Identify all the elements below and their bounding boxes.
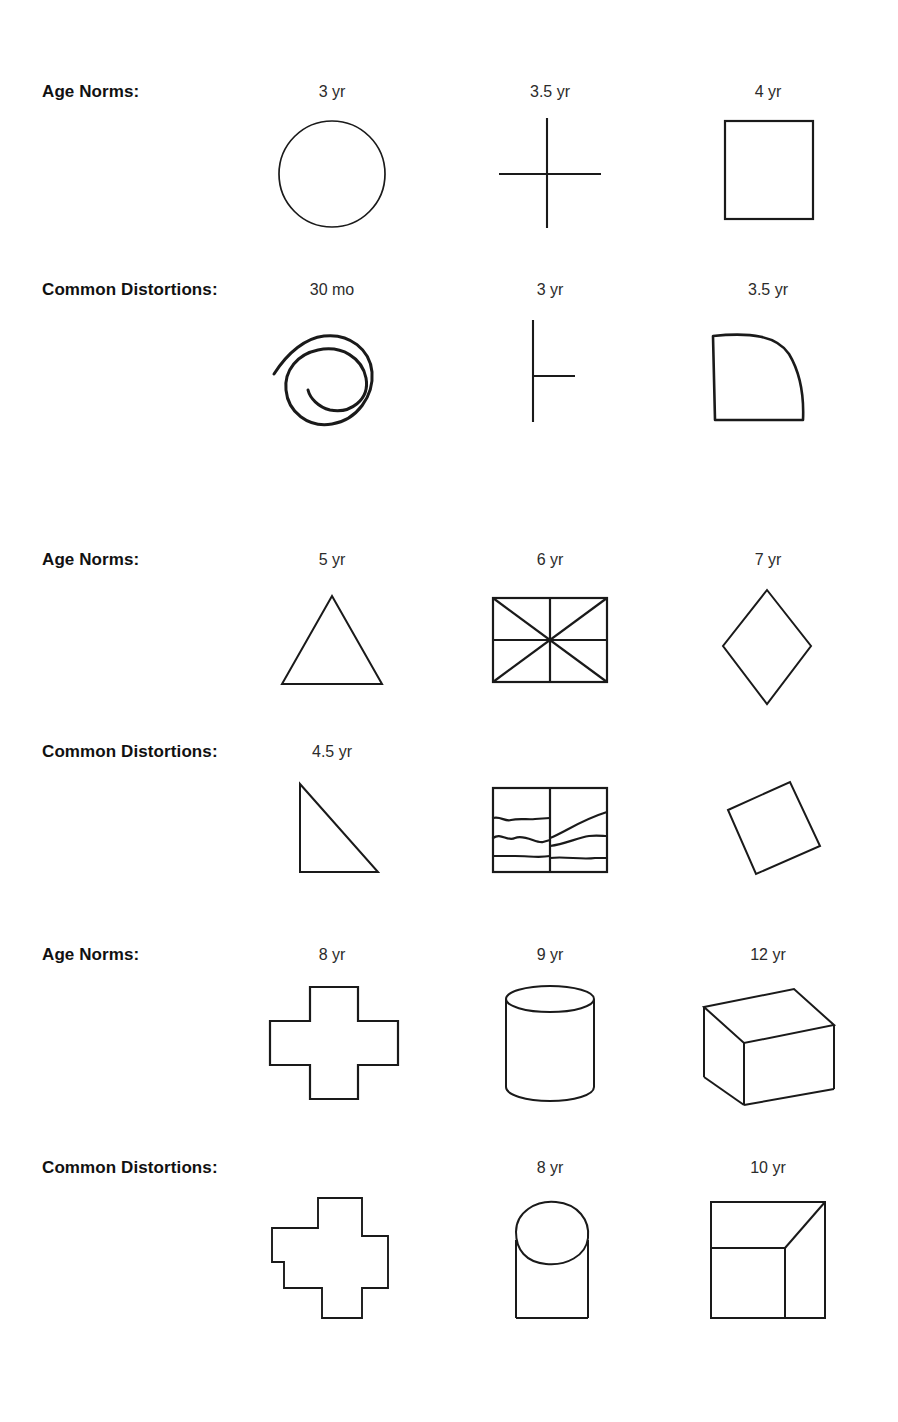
age-label-cylinder: 9 yr: [450, 945, 650, 965]
shape-circle: [232, 116, 432, 256]
age-label-greek-cross: 8 yr: [232, 945, 432, 965]
shape-wavy-divided-rectangle: [450, 776, 650, 896]
cell-norm-cylinder: 9 yr: [450, 945, 650, 1119]
row-label-common-distortions-3: Common Distortions:: [42, 1158, 218, 1178]
age-label-divided-rectangle: 6 yr: [450, 550, 650, 570]
cell-distortion-wavy-rectangle: [450, 742, 650, 896]
age-label-stepped-cross: [232, 1158, 432, 1178]
age-label-cross: 3.5 yr: [450, 82, 650, 102]
row-label-common-distortions-2: Common Distortions:: [42, 742, 218, 762]
shape-rounded-corner-square: [668, 314, 868, 454]
cell-norm-cube: 12 yr: [668, 945, 868, 1119]
cell-distortion-t-cross: 3 yr: [450, 280, 650, 454]
cell-distortion-rounded-square: 3.5 yr: [668, 280, 868, 454]
row-label-common-distortions-1: Common Distortions:: [42, 280, 218, 300]
row-label-age-norms-3: Age Norms:: [42, 945, 139, 965]
cell-norm-triangle: 5 yr: [232, 550, 432, 724]
shape-cylinder: [450, 979, 650, 1119]
age-label-cube: 12 yr: [668, 945, 868, 965]
cell-distortion-scribbled-circle: 30 mo: [232, 280, 432, 454]
cell-norm-square: 4 yr: [668, 82, 868, 256]
figure-page: Age Norms: 3 yr 3.5 yr 4 yr: [0, 0, 898, 1422]
age-label-tilted-square: [668, 742, 868, 762]
age-label-triangle: 5 yr: [232, 550, 432, 570]
cell-distortion-right-triangle: 4.5 yr: [232, 742, 432, 896]
shape-square: [668, 116, 868, 256]
shape-tilted-square: [668, 776, 868, 896]
shape-stepped-irregular-cross: [232, 1192, 432, 1332]
row-label-age-norms-1: Age Norms:: [42, 82, 139, 102]
cell-norm-divided-rectangle: 6 yr: [450, 550, 650, 724]
shape-cross: [450, 116, 650, 256]
shape-diamond: [668, 584, 868, 724]
age-label-diamond: 7 yr: [668, 550, 868, 570]
shape-greek-cross: [232, 979, 432, 1119]
shape-flat-cube-with-diagonal: [668, 1192, 868, 1332]
cell-distortion-oval-on-rectangle: 8 yr: [450, 1158, 650, 1332]
cell-norm-greek-cross: 8 yr: [232, 945, 432, 1119]
age-label-square: 4 yr: [668, 82, 868, 102]
age-label-rounded-square: 3.5 yr: [668, 280, 868, 300]
shape-t-shape-cross: [450, 314, 650, 454]
age-label-scribbled-circle: 30 mo: [232, 280, 432, 300]
age-label-oval-on-rectangle: 8 yr: [450, 1158, 650, 1178]
shape-scribbled-spiral-circle: [232, 314, 432, 454]
age-label-wavy-rectangle: [450, 742, 650, 762]
cell-norm-circle: 3 yr: [232, 82, 432, 256]
shape-divided-rectangle: [450, 584, 650, 724]
age-label-circle: 3 yr: [232, 82, 432, 102]
cell-distortion-stepped-cross: [232, 1158, 432, 1332]
shape-right-triangle: [232, 776, 432, 896]
cell-distortion-flat-cube: 10 yr: [668, 1158, 868, 1332]
age-label-t-cross: 3 yr: [450, 280, 650, 300]
cell-norm-diamond: 7 yr: [668, 550, 868, 724]
shape-oval-on-rectangle: [450, 1192, 650, 1332]
shape-triangle: [232, 584, 432, 724]
age-label-flat-cube: 10 yr: [668, 1158, 868, 1178]
shape-cube: [668, 979, 868, 1119]
cell-norm-cross: 3.5 yr: [450, 82, 650, 256]
row-label-age-norms-2: Age Norms:: [42, 550, 139, 570]
cell-distortion-tilted-square: [668, 742, 868, 896]
age-label-right-triangle: 4.5 yr: [232, 742, 432, 762]
